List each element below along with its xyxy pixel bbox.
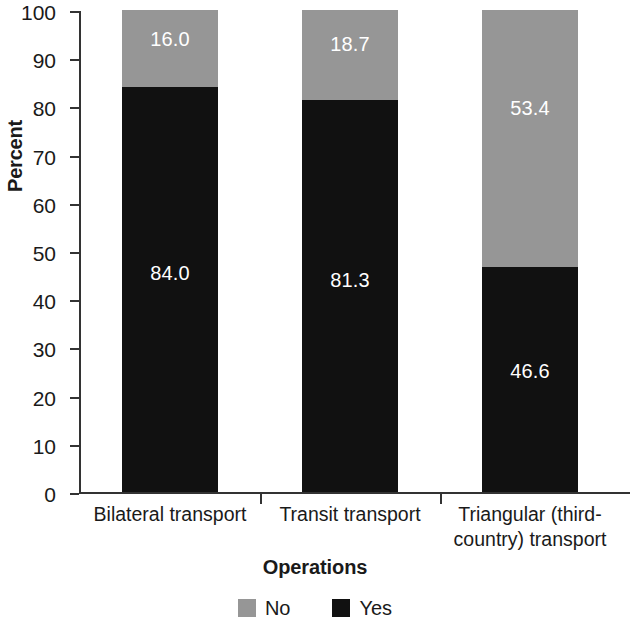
x-axis-category-label: Transit transport xyxy=(260,502,440,527)
bar-group[interactable]: 84.016.0 xyxy=(122,10,218,492)
y-axis-tick: 90 xyxy=(70,59,79,61)
bar-group[interactable]: 81.318.7 xyxy=(302,10,398,492)
y-axis-tick-label: 40 xyxy=(33,291,56,312)
bar-value-label: 16.0 xyxy=(122,29,218,49)
y-axis-tick: 40 xyxy=(70,300,79,302)
bar-value-label: 84.0 xyxy=(122,263,218,283)
chart-legend: NoYes xyxy=(0,598,630,618)
x-axis-line xyxy=(79,492,630,494)
category-label-line: Bilateral transport xyxy=(80,502,260,527)
y-axis-tick-label: 30 xyxy=(33,339,56,360)
y-axis-tick: 100 xyxy=(70,11,79,13)
stacked-bar-chart: Percent 1009080706050403020100 84.016.08… xyxy=(0,0,630,630)
x-axis-category-label: Bilateral transport xyxy=(80,502,260,527)
y-axis-tick-label: 100 xyxy=(21,2,56,23)
y-axis-tick: 20 xyxy=(70,397,79,399)
y-axis-tick: 10 xyxy=(70,445,79,447)
bar-value-label: 53.4 xyxy=(482,98,578,118)
bar-value-label: 18.7 xyxy=(302,34,398,54)
bar-segment-yes[interactable]: 84.0 xyxy=(122,87,218,492)
legend-label: No xyxy=(265,598,291,618)
y-axis-tick-label: 80 xyxy=(33,98,56,119)
legend-label: Yes xyxy=(359,598,392,618)
legend-item[interactable]: No xyxy=(238,598,291,618)
y-axis-tick: 80 xyxy=(70,107,79,109)
y-axis-tick: 50 xyxy=(70,252,79,254)
y-axis-tick-label: 50 xyxy=(33,243,56,264)
x-axis-category-label: Triangular (third-country) transport xyxy=(440,502,620,552)
category-label-line: country) transport xyxy=(440,527,620,552)
y-axis-tick: 0 xyxy=(70,493,79,495)
y-axis-tick-label: 20 xyxy=(33,387,56,408)
y-axis-tick-label: 90 xyxy=(33,50,56,71)
y-axis-title: Percent xyxy=(2,91,28,221)
category-label-line: Transit transport xyxy=(260,502,440,527)
bar-segment-no[interactable]: 16.0 xyxy=(122,10,218,87)
bar-value-label: 81.3 xyxy=(302,270,398,290)
bar-value-label: 46.6 xyxy=(482,361,578,381)
bar-segment-yes[interactable]: 46.6 xyxy=(482,267,578,492)
legend-swatch-yes xyxy=(332,599,350,617)
bar-segment-no[interactable]: 18.7 xyxy=(302,10,398,100)
plot-area: 1009080706050403020100 84.016.081.318.74… xyxy=(79,11,588,493)
y-axis-tick-label: 60 xyxy=(33,194,56,215)
y-axis-tick-label: 10 xyxy=(33,435,56,456)
legend-swatch-no xyxy=(238,599,256,617)
bar-group[interactable]: 46.653.4 xyxy=(482,10,578,492)
bar-segment-yes[interactable]: 81.3 xyxy=(302,100,398,492)
category-label-line: Triangular (third- xyxy=(440,502,620,527)
y-axis-tick: 60 xyxy=(70,204,79,206)
x-axis-title: Operations xyxy=(0,556,630,579)
y-axis-tick-label: 70 xyxy=(33,146,56,167)
y-axis-tick-label: 0 xyxy=(44,484,56,505)
y-axis-tick: 70 xyxy=(70,156,79,158)
legend-item[interactable]: Yes xyxy=(332,598,392,618)
y-axis-tick: 30 xyxy=(70,348,79,350)
bar-segment-no[interactable]: 53.4 xyxy=(482,10,578,267)
y-axis-line xyxy=(79,11,81,494)
